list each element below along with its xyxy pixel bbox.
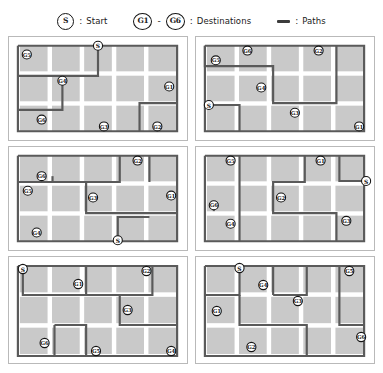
grid-cell: [239, 216, 267, 242]
destination-node-g3: G3: [290, 108, 299, 117]
maze-path-figure: S : Start G1 - G6 : Destinations : Paths…: [0, 0, 383, 373]
node-label: G2: [153, 124, 162, 130]
destination-node-g1: G1: [74, 279, 83, 288]
node-label: G3: [89, 195, 98, 201]
destination-node-g2: G2: [314, 46, 323, 55]
destination-node-g5: G5: [211, 56, 220, 65]
node-label: G5: [92, 348, 101, 354]
destination-node-g2: G2: [276, 193, 285, 202]
node-label: G2: [133, 158, 142, 164]
destination-node-g1: G1: [355, 122, 364, 131]
destination-node-g5: G5: [22, 50, 31, 59]
start-node-s: S: [18, 264, 27, 273]
destination-node-g1: G1: [167, 191, 176, 200]
destination-node-g6: G6: [37, 172, 46, 181]
destination-node-g6: G6: [357, 332, 366, 341]
destination-node-g1: G1: [165, 82, 174, 91]
grid-cell: [207, 328, 235, 354]
node-label: G5: [345, 268, 354, 274]
node-label: G3: [294, 298, 303, 304]
node-label: G4: [167, 348, 176, 354]
grid-cell: [84, 297, 112, 323]
destination-node-g3: G3: [342, 216, 351, 225]
grid-cell: [335, 186, 363, 212]
grid-cell: [303, 297, 331, 323]
path-line-icon: [277, 20, 290, 23]
destination-node-g4: G4: [32, 228, 41, 237]
panel-grid: G5SG4G1G6G3G2G5G6G2G4G3SG1G6G2G5G3G1G4SG…: [8, 36, 375, 366]
destination-node-g6: G6: [37, 115, 46, 124]
grid-cell: [116, 46, 144, 72]
destination-first-node-icon: G1: [133, 13, 152, 30]
start-node-s: S: [204, 101, 213, 110]
destination-node-g1: G1: [212, 306, 221, 315]
legend-destinations-separator: :: [190, 16, 193, 26]
node-label: G4: [257, 85, 266, 91]
node-label: G5: [23, 52, 32, 58]
node-label: G4: [259, 282, 268, 288]
node-label: G6: [38, 173, 47, 179]
destination-node-g4: G4: [259, 280, 268, 289]
destination-node-g5: G5: [226, 156, 235, 165]
legend: S : Start G1 - G6 : Destinations : Paths: [0, 8, 383, 34]
node-label: G1: [165, 84, 174, 90]
start-node-s: S: [93, 41, 102, 50]
destination-node-g3: G3: [99, 122, 108, 131]
panel-2: G5G6G2G4G3SG1: [195, 36, 375, 141]
destination-node-g6: G6: [209, 201, 218, 210]
node-label: G4: [58, 78, 67, 84]
destination-node-g4: G4: [58, 76, 67, 85]
grid-cell: [52, 46, 80, 72]
panel-3: G6G2G5G3G1G4S: [8, 146, 188, 251]
node-label: G2: [142, 268, 151, 274]
grid-cell: [20, 297, 48, 323]
destination-node-g4: G4: [257, 83, 266, 92]
grid-cell: [116, 328, 144, 354]
node-label: G6: [38, 117, 47, 123]
panel-5: SG1G2G3G6G5G4: [8, 256, 188, 364]
grid-cell: [303, 76, 331, 102]
node-label: G5: [212, 58, 221, 64]
grid-cell: [271, 76, 299, 102]
grid-cell: [52, 216, 80, 242]
grid-cell: [20, 76, 48, 102]
destination-node-g3: G3: [293, 296, 302, 305]
grid-cell: [239, 156, 267, 182]
panel-1: G5SG4G1G6G3G2: [8, 36, 188, 141]
node-label: G3: [100, 124, 109, 130]
grid-cell: [335, 76, 363, 102]
grid-cell: [148, 46, 176, 72]
destination-node-g1: G1: [316, 156, 325, 165]
node-label: S: [364, 178, 368, 185]
node-label: G1: [213, 308, 222, 314]
destination-last-node-icon: G6: [166, 13, 185, 30]
node-label: G1: [355, 124, 364, 130]
grid-cell: [239, 297, 267, 323]
start-node-s: S: [113, 236, 122, 245]
grid-cell: [148, 156, 176, 182]
grid-cell: [84, 156, 112, 182]
node-label: G1: [167, 193, 176, 199]
node-label: G6: [243, 48, 252, 54]
grid-cell: [52, 186, 80, 212]
destination-node-g5: G5: [91, 346, 100, 355]
grid-cell: [303, 106, 331, 132]
destination-node-g3: G3: [123, 305, 132, 314]
grid-cell: [271, 266, 299, 292]
node-label: G3: [291, 110, 300, 116]
grid-cell: [84, 216, 112, 242]
legend-range-dash: -: [156, 16, 161, 26]
grid-cell: [271, 156, 299, 182]
legend-item-start: S : Start: [57, 13, 107, 30]
node-label: G2: [277, 195, 286, 201]
grid-cell: [52, 156, 80, 182]
grid-cell: [116, 186, 144, 212]
node-label: G5: [226, 158, 235, 164]
destination-node-g2: G2: [133, 156, 142, 165]
node-label: G4: [33, 230, 42, 236]
node-label: G5: [24, 188, 33, 194]
destination-node-g5: G5: [23, 186, 32, 195]
destination-node-g3: G3: [89, 193, 98, 202]
node-label: G2: [247, 344, 256, 350]
legend-item-paths: : Paths: [277, 16, 326, 26]
